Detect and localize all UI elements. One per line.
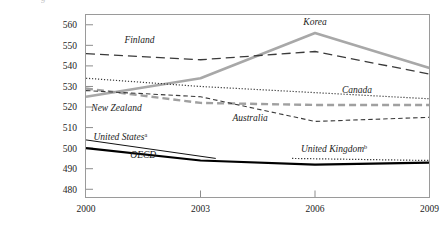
y-axis-tick-label: 530 bbox=[63, 82, 78, 92]
series-label-australia: Australia bbox=[231, 113, 268, 123]
y-axis-tick-label: 500 bbox=[63, 144, 78, 154]
y-axis-tick-label: 490 bbox=[63, 164, 78, 174]
series-label-united-kingdom: United Kingdomb bbox=[301, 143, 367, 155]
y-axis-tick-label: 520 bbox=[63, 102, 78, 112]
line-chart: g 480490500510520530540550560 2000200320… bbox=[0, 0, 448, 230]
chart-plot-area: 480490500510520530540550560 200020032006… bbox=[0, 0, 448, 230]
y-axis-tick-label: 480 bbox=[63, 185, 78, 195]
series-label-canada: Canada bbox=[342, 85, 372, 95]
series-label-korea: Korea bbox=[302, 17, 327, 27]
y-axis-tick-label: 540 bbox=[63, 61, 78, 71]
series-label-oecd: OECD bbox=[130, 150, 156, 160]
series-label-united-states: United Statesa bbox=[94, 130, 148, 142]
x-axis-tick-label: 2003 bbox=[191, 204, 210, 214]
series-label-new-zealand: New Zealand bbox=[90, 103, 142, 113]
x-axis-tick-label: 2000 bbox=[77, 204, 96, 214]
y-axis-tick-group: 480490500510520530540550560 bbox=[63, 20, 93, 194]
x-axis-tick-label: 2009 bbox=[420, 204, 439, 214]
data-series-group bbox=[86, 33, 430, 165]
y-axis-tick-label: 510 bbox=[63, 123, 78, 133]
series-label-finland: Finland bbox=[123, 35, 154, 45]
x-axis-tick-label: 2006 bbox=[306, 204, 325, 214]
y-axis-tick-label: 550 bbox=[63, 41, 78, 51]
y-axis-tick-label: 560 bbox=[63, 20, 78, 30]
series-line-united-kingdom bbox=[292, 158, 429, 160]
x-axis-tick-group: 2000200320062009 bbox=[77, 191, 440, 214]
